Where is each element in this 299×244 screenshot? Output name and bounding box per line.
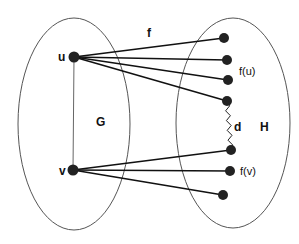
edge-v-h6 bbox=[73, 170, 230, 171]
vertex-label-u: u bbox=[58, 50, 65, 64]
vertex-label-v: v bbox=[59, 164, 66, 178]
vertex-h7 bbox=[218, 190, 228, 200]
image-label-fv: f(v) bbox=[240, 165, 256, 177]
vertex-h2 bbox=[222, 55, 232, 65]
vertex-u bbox=[69, 52, 80, 63]
distance-label-d: d bbox=[234, 120, 241, 134]
vertex-h4 bbox=[222, 96, 232, 106]
vertex-h5 bbox=[226, 145, 236, 155]
vertex-h6 bbox=[225, 166, 235, 176]
graph-label-h: H bbox=[260, 120, 269, 134]
graph-label-g: G bbox=[96, 115, 105, 129]
vertex-v bbox=[68, 165, 79, 176]
vertex-h3 bbox=[223, 75, 233, 85]
image-label-fu: f(u) bbox=[239, 65, 256, 77]
vertex-h1 bbox=[219, 33, 229, 43]
homomorphism-diagram: u v G H f d f(u) f(v) bbox=[0, 0, 299, 244]
